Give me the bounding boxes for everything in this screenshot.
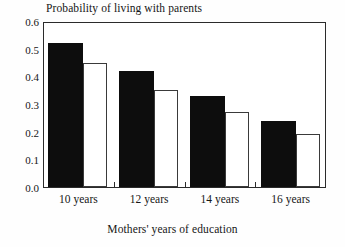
- chart-figure: Probability of living with parents 0.00.…: [0, 0, 345, 247]
- bar-solid: [190, 96, 225, 187]
- bar-solid: [48, 43, 83, 187]
- chart-title: Probability of living with parents: [46, 1, 202, 15]
- x-axis-tick-mark: [255, 182, 256, 188]
- bar-hollow: [83, 63, 107, 188]
- y-axis-tick-label: 0.6: [11, 17, 39, 28]
- x-axis-tick-mark: [185, 182, 186, 188]
- y-axis-tick-label: 0.5: [11, 44, 39, 55]
- plot-area: [44, 23, 325, 187]
- bar-hollow: [225, 112, 249, 187]
- bar-solid: [119, 71, 154, 187]
- x-axis-tick-mark: [114, 182, 115, 188]
- y-axis-tick-label: 0.1: [11, 155, 39, 166]
- x-axis-category-label: 16 years: [271, 193, 310, 206]
- y-axis-tick-label: 0.4: [11, 72, 39, 83]
- bar-solid: [261, 121, 296, 187]
- y-axis-tick-label: 0.2: [11, 127, 39, 138]
- x-axis-category-label: 14 years: [201, 193, 240, 206]
- plot-frame: [43, 22, 326, 188]
- y-axis-tick-label: 0.0: [11, 183, 39, 194]
- x-axis-title: Mothers' years of education: [0, 222, 345, 236]
- bar-hollow: [154, 90, 178, 187]
- x-axis-category-label: 12 years: [130, 193, 169, 206]
- bar-hollow: [296, 134, 320, 187]
- y-axis-tick-label: 0.3: [11, 100, 39, 111]
- x-axis-category-label: 10 years: [59, 193, 98, 206]
